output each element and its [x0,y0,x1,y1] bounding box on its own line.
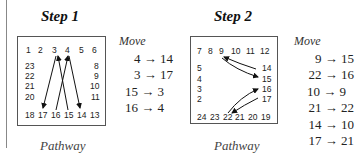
arrow-4-to-14 [69,56,80,108]
arrow-22-to-16 [228,89,258,113]
movement-arrows [0,0,356,162]
arrow-3-to-17 [43,56,56,108]
arrow-17-to-21 [232,98,258,113]
